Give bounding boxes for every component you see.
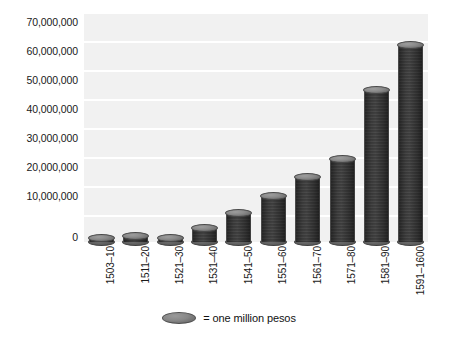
coin-stack-body bbox=[261, 196, 286, 242]
coin-icon bbox=[162, 312, 196, 324]
legend-label: = one million pesos bbox=[203, 312, 296, 324]
legend: = one million pesos bbox=[0, 306, 458, 330]
y-axis: 70,000,000 60,000,000 50,000,000 40,000,… bbox=[0, 0, 78, 337]
coin-stack-bar bbox=[226, 213, 251, 242]
y-tick-label-70000000: 70,000,000 bbox=[0, 17, 78, 28]
bars-layer bbox=[84, 12, 428, 242]
y-tick-label-50000000: 50,000,000 bbox=[0, 75, 78, 86]
x-tick-label: 1511–20 bbox=[140, 246, 151, 284]
coin-top-icon bbox=[157, 234, 184, 242]
coin-stack-bar bbox=[295, 177, 320, 242]
coin-stack-bar bbox=[398, 45, 423, 242]
x-tick-label: 1591–1600 bbox=[415, 246, 426, 295]
x-tick-label: 1503–10 bbox=[105, 246, 116, 284]
coin-top-icon bbox=[88, 234, 115, 242]
coin-top-icon bbox=[260, 192, 287, 200]
coin-stack-body bbox=[295, 177, 320, 242]
coin-stack-chart: 70,000,000 60,000,000 50,000,000 40,000,… bbox=[0, 0, 458, 337]
coin-top-icon bbox=[363, 86, 390, 94]
x-axis: 1503–101511–201521–301531–401541–501551–… bbox=[84, 246, 428, 298]
y-tick-label-60000000: 60,000,000 bbox=[0, 46, 78, 57]
y-tick-label-40000000: 40,000,000 bbox=[0, 104, 78, 115]
coin-stack-bar bbox=[330, 159, 355, 242]
x-tick-label: 1551–60 bbox=[277, 246, 288, 284]
x-tick-label: 1571–80 bbox=[346, 246, 357, 284]
coin-stack-body bbox=[330, 159, 355, 242]
y-tick-label-0: 0 bbox=[0, 232, 78, 243]
coin-stack-bar bbox=[192, 228, 217, 243]
coin-top-icon bbox=[294, 173, 321, 181]
x-tick-label: 1561–70 bbox=[312, 246, 323, 284]
coin-top-icon bbox=[191, 224, 218, 232]
x-tick-label: 1581–90 bbox=[380, 246, 391, 284]
coin-stack-bar bbox=[364, 90, 389, 242]
coin-stack-bar bbox=[89, 238, 114, 242]
coin-top-icon bbox=[397, 41, 424, 49]
coin-stack-body bbox=[364, 90, 389, 242]
coin-stack-body bbox=[398, 45, 423, 242]
x-tick-label: 1541–50 bbox=[243, 246, 254, 284]
coin-stack-bar bbox=[158, 238, 183, 242]
x-tick-label: 1521–30 bbox=[174, 246, 185, 284]
x-tick-label: 1531–40 bbox=[208, 246, 219, 284]
y-tick-label-10000000: 10,000,000 bbox=[0, 191, 78, 202]
coin-stack-bar bbox=[123, 236, 148, 242]
y-tick-label-20000000: 20,000,000 bbox=[0, 162, 78, 173]
coin-stack-bar bbox=[261, 196, 286, 242]
coin-stack-body bbox=[226, 213, 251, 242]
y-tick-label-30000000: 30,000,000 bbox=[0, 133, 78, 144]
